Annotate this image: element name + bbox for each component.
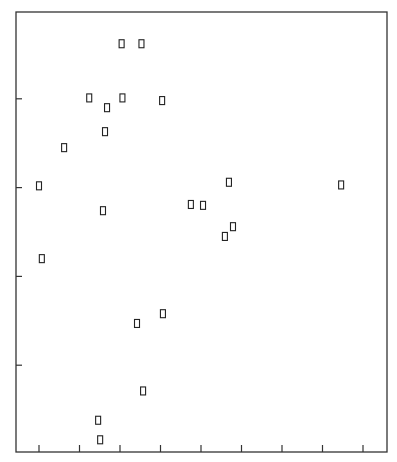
data-point-marker (62, 144, 67, 152)
data-point-marker (120, 94, 125, 102)
data-point-marker (98, 436, 103, 444)
data-point-marker (103, 128, 108, 136)
data-point-marker (222, 232, 227, 240)
data-point-marker (100, 207, 105, 215)
data-point-marker (119, 40, 124, 48)
data-point-marker (135, 319, 140, 327)
x-axis-ticks (39, 445, 363, 452)
data-point-marker (188, 200, 193, 208)
data-point-marker (226, 178, 231, 186)
data-point-marker (141, 387, 146, 395)
y-axis-ticks (16, 99, 22, 365)
data-point-marker (105, 104, 110, 112)
data-point-marker (230, 223, 235, 231)
data-points (37, 40, 344, 444)
data-point-marker (96, 416, 101, 424)
data-point-marker (139, 40, 144, 48)
scatter-chart (0, 0, 397, 462)
data-point-marker (160, 97, 165, 105)
data-point-marker (87, 94, 92, 102)
data-point-marker (201, 201, 206, 209)
plot-frame (16, 12, 387, 452)
data-point-marker (37, 182, 42, 190)
data-point-marker (160, 310, 165, 318)
data-point-marker (39, 255, 44, 263)
plot-border (16, 12, 387, 452)
data-point-marker (339, 181, 344, 189)
